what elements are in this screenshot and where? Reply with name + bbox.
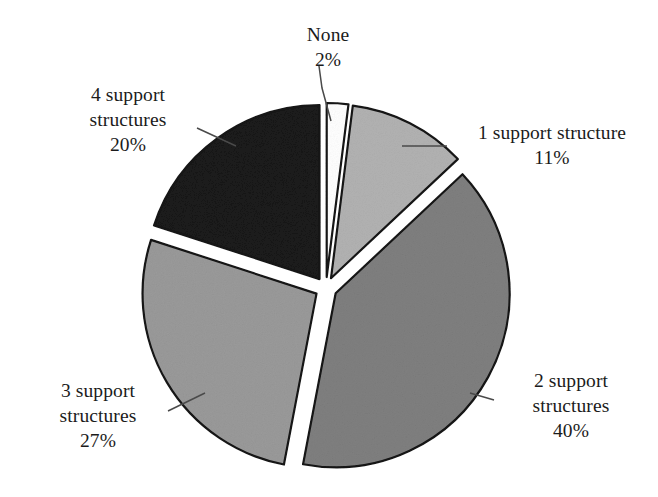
slice-label-2-value: 40% bbox=[496, 418, 646, 443]
slice-label-1-value: 11% bbox=[452, 145, 652, 170]
slice-label-none: None 2% bbox=[268, 22, 388, 72]
slice-label-2-name-line1: 2 support bbox=[496, 368, 646, 393]
slice-label-2-support-structures: 2 support structures 40% bbox=[496, 368, 646, 443]
slice-label-3-value: 27% bbox=[18, 428, 178, 453]
pie-chart-figure: None 2% 4 support structures 20% 1 suppo… bbox=[0, 0, 658, 497]
slice-label-none-value: 2% bbox=[268, 47, 388, 72]
slice-label-4-name-line1: 4 support bbox=[48, 82, 208, 107]
slice-label-4-support-structures: 4 support structures 20% bbox=[48, 82, 208, 157]
slice-label-4-name-line2: structures bbox=[48, 107, 208, 132]
slice-label-3-name-line2: structures bbox=[18, 403, 178, 428]
slice-label-none-name: None bbox=[268, 22, 388, 47]
slice-label-3-support-structures: 3 support structures 27% bbox=[18, 378, 178, 453]
slice-label-3-name-line1: 3 support bbox=[18, 378, 178, 403]
slice-label-1-name: 1 support structure bbox=[452, 120, 652, 145]
slice-label-2-name-line2: structures bbox=[496, 393, 646, 418]
slice-label-1-support-structure: 1 support structure 11% bbox=[452, 120, 652, 170]
slice-label-4-value: 20% bbox=[48, 132, 208, 157]
